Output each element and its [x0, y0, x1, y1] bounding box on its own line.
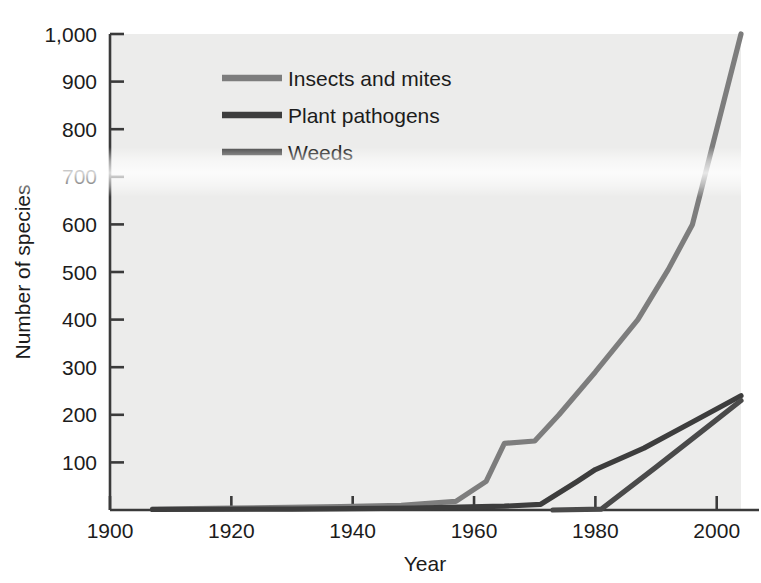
y-tick-label: 600 [62, 213, 97, 236]
line-chart: 1002003004005006007008009001,000 1900192… [0, 0, 761, 583]
legend-item-label: Plant pathogens [288, 104, 440, 127]
x-axis-tick-labels: 190019201940196019802000 [87, 519, 740, 542]
x-tick-label: 1940 [329, 519, 376, 542]
x-axis-title: Year [404, 552, 446, 575]
y-tick-label: 1,000 [44, 23, 97, 46]
y-axis-tick-labels: 1002003004005006007008009001,000 [44, 23, 97, 474]
y-tick-label: 100 [62, 451, 97, 474]
chart-figure: 1002003004005006007008009001,000 1900192… [0, 0, 761, 583]
y-tick-label: 500 [62, 261, 97, 284]
y-axis-title: Number of species [11, 184, 34, 359]
x-tick-label: 2000 [693, 519, 740, 542]
y-tick-label: 200 [62, 403, 97, 426]
x-tick-label: 1960 [451, 519, 498, 542]
x-tick-label: 1920 [208, 519, 255, 542]
legend-item-label: Weeds [288, 141, 353, 164]
y-tick-label: 400 [62, 308, 97, 331]
y-tick-label: 800 [62, 118, 97, 141]
legend-item-label: Insects and mites [288, 67, 451, 90]
y-tick-label: 700 [62, 165, 97, 188]
y-tick-label: 900 [62, 70, 97, 93]
x-tick-label: 1980 [572, 519, 619, 542]
y-tick-label: 300 [62, 356, 97, 379]
x-tick-label: 1900 [87, 519, 134, 542]
